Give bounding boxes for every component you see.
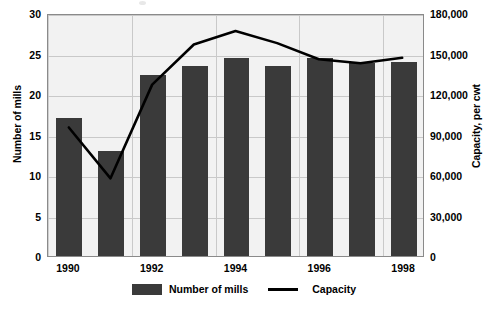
legend-label-number-of-mills: Number of mills (169, 283, 248, 295)
y-tick-left-0: 0 (1, 252, 41, 262)
y-axis-right-title: Capacity, per cwt (470, 71, 482, 181)
y-tick-left-30: 30 (1, 9, 41, 19)
y-tick-right-120000: 120,000 (430, 90, 488, 100)
bar-swatch-icon (132, 284, 162, 295)
x-tick-1992: 1992 (122, 263, 182, 273)
y-tick-left-15: 15 (1, 131, 41, 141)
capacity-line (69, 31, 402, 178)
y-tick-right-30000: 30,000 (430, 212, 488, 222)
x-tick-1994: 1994 (206, 263, 266, 273)
x-tick-1990: 1990 (38, 263, 98, 273)
y-tick-left-10: 10 (1, 171, 41, 181)
line-series (48, 15, 423, 256)
y-axis-left-title: Number of mills (11, 74, 23, 174)
y-tick-right-60000: 60,000 (430, 171, 488, 181)
y-tick-left-20: 20 (1, 90, 41, 100)
legend-label-capacity: Capacity (312, 283, 356, 295)
plot-area (47, 14, 424, 257)
line-swatch-icon (268, 288, 298, 291)
chart-legend: Number of mills Capacity (0, 283, 488, 295)
x-tick-1998: 1998 (373, 263, 433, 273)
y-tick-right-90000: 90,000 (430, 131, 488, 141)
y-tick-left-25: 25 (1, 50, 41, 60)
y-tick-right-180000: 180,000 (430, 9, 488, 19)
legend-item-capacity: Capacity (268, 283, 356, 295)
chart-figure: Number of mills Capacity, per cwt 051015… (0, 0, 488, 311)
scan-artifact (139, 1, 146, 5)
y-tick-right-0: 0 (430, 252, 488, 262)
y-tick-right-150000: 150,000 (430, 50, 488, 60)
x-tick-1996: 1996 (289, 263, 349, 273)
y-tick-left-5: 5 (1, 212, 41, 222)
legend-item-number-of-mills: Number of mills (132, 283, 248, 295)
